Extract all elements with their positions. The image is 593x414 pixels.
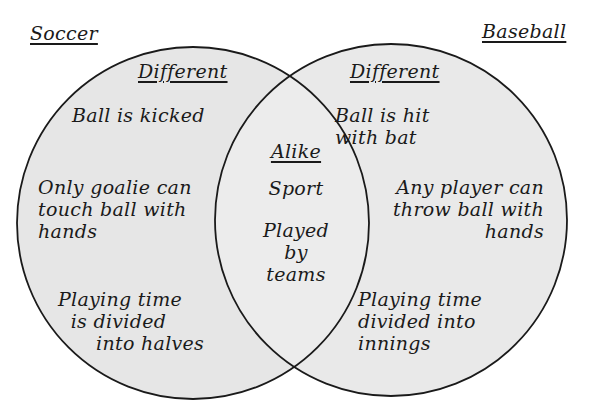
soccer-item-playing-time: Playing time is divided into halves: [58, 288, 204, 354]
alike-heading: Alike: [256, 140, 336, 162]
soccer-different-heading: Different: [138, 60, 228, 82]
baseball-item-playing-time: Playing time divided into innings: [358, 288, 482, 354]
alike-item-sport: Sport: [256, 177, 336, 199]
baseball-set-title: Baseball: [482, 20, 566, 42]
baseball-item-throw: Any player can throw ball with hands: [352, 176, 544, 242]
soccer-set-title: Soccer: [30, 22, 98, 44]
alike-item-teams: Played by teams: [250, 219, 342, 285]
baseball-different-heading: Different: [350, 60, 440, 82]
baseball-item-bat: Ball is hit with bat: [335, 104, 430, 148]
soccer-item-kicked: Ball is kicked: [72, 104, 205, 126]
soccer-item-goalie: Only goalie can touch ball with hands: [38, 176, 192, 242]
